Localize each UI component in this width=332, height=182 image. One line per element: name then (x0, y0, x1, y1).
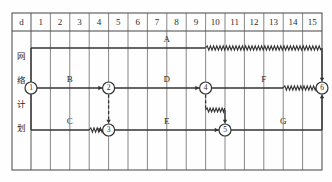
header-unit-label: d (19, 18, 24, 27)
activity-label-C: C (67, 117, 73, 126)
header-day-12: 12 (250, 18, 259, 27)
dummy-link-4-5 (206, 95, 228, 124)
node-1-label: 1 (29, 84, 33, 92)
header-day-3: 3 (77, 18, 82, 27)
node-6-label: 6 (320, 84, 324, 92)
arrowhead (223, 120, 227, 124)
dummy-4-5-float (206, 108, 225, 112)
arrowhead (320, 94, 324, 98)
node-5-label: 5 (223, 126, 227, 134)
activity-label-E: E (164, 117, 170, 126)
header-day-9: 9 (194, 18, 199, 27)
activity-A-float (206, 46, 321, 50)
header-day-7: 7 (155, 18, 160, 27)
arrowhead (320, 78, 324, 82)
activity-label-D: D (164, 75, 171, 84)
header-day-4: 4 (97, 18, 102, 27)
diagram-canvas (0, 0, 332, 182)
header-day-15: 15 (308, 18, 317, 27)
activity-A (31, 46, 321, 50)
side-label-char-3: 划 (17, 124, 26, 133)
node-4-label: 4 (204, 84, 208, 92)
activity-F (206, 86, 321, 90)
node-3-label: 3 (107, 126, 111, 134)
header-day-14: 14 (288, 18, 297, 27)
header-day-11: 11 (230, 18, 239, 27)
activity-label-A: A (164, 35, 171, 44)
activity-C (31, 128, 107, 132)
arrowhead (215, 128, 219, 132)
header-day-6: 6 (135, 18, 140, 27)
activity-label-G: G (280, 117, 287, 126)
activity-D (109, 86, 206, 90)
arrowhead (98, 86, 102, 90)
side-label-char-0: 网 (17, 52, 26, 61)
node-layer (25, 82, 328, 136)
side-label-char-1: 络 (17, 76, 26, 85)
header-day-10: 10 (211, 18, 220, 27)
header-day-8: 8 (174, 18, 179, 27)
arrowhead (195, 86, 199, 90)
header-day-13: 13 (269, 18, 278, 27)
header-day-5: 5 (116, 18, 121, 27)
node-2-label: 2 (107, 84, 111, 92)
network-diagram-page: d123456789101112131415网络计划ABCDEFG123456 (0, 0, 332, 182)
side-label-char-2: 计 (17, 100, 26, 109)
header-day-2: 2 (58, 18, 63, 27)
activity-label-F: F (261, 75, 266, 84)
header-day-1: 1 (38, 18, 43, 27)
activity-F-float (283, 86, 321, 90)
activity-label-B: B (67, 75, 73, 84)
arrowhead (106, 120, 110, 124)
